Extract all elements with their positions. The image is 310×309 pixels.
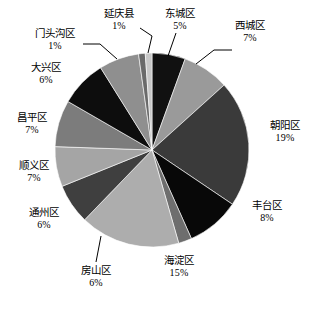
leader-line-mentougou (83, 44, 117, 59)
slice-label-mentougou: 门头沟区 1% (26, 28, 84, 51)
slice-label-mentougou-name: 门头沟区 (26, 28, 84, 40)
slice-label-fengtai: 丰台区 8% (245, 200, 289, 223)
leader-line-xicheng (196, 50, 232, 64)
pie-slice-group (55, 53, 249, 247)
slice-label-fangshan-pct: 6% (72, 277, 120, 288)
slice-label-daxing-pct: 6% (22, 74, 70, 85)
slice-label-yanqing: 延庆县 1% (96, 8, 142, 31)
slice-label-shunyi: 顺义区 7% (10, 160, 58, 183)
slice-label-haidian-name: 海淀区 (155, 255, 203, 267)
slice-label-haidian-pct: 15% (155, 267, 203, 278)
slice-label-changping-pct: 7% (8, 124, 56, 135)
slice-label-dongcheng-pct: 5% (158, 20, 202, 31)
slice-label-fangshan: 房山区 6% (72, 265, 120, 288)
slice-label-yanqing-pct: 1% (96, 20, 142, 31)
slice-label-xicheng-name: 西城区 (228, 20, 272, 32)
slice-label-shunyi-pct: 7% (10, 172, 58, 183)
slice-label-tongzhou: 通州区 6% (20, 207, 68, 230)
slice-label-daxing-name: 大兴区 (22, 62, 70, 74)
pie-chart: 东城区 5% 西城区 7% 朝阳区 19% 丰台区 8% 海淀区 15% 房山区… (0, 0, 310, 309)
slice-label-shunyi-name: 顺义区 (10, 160, 58, 172)
slice-label-tongzhou-pct: 6% (20, 219, 68, 230)
slice-label-xicheng-pct: 7% (228, 32, 272, 43)
slice-label-yanqing-name: 延庆县 (96, 8, 142, 20)
slice-label-dongcheng: 东城区 5% (158, 8, 202, 31)
slice-label-haidian: 海淀区 15% (155, 255, 203, 278)
leader-line-yanqing (140, 28, 152, 53)
slice-label-fengtai-name: 丰台区 (245, 200, 289, 212)
slice-label-fangshan-name: 房山区 (72, 265, 120, 277)
slice-label-dongcheng-name: 东城区 (158, 8, 202, 20)
slice-label-mentougou-pct: 1% (26, 40, 84, 51)
slice-label-chaoyang: 朝阳区 19% (262, 120, 308, 143)
slice-label-fengtai-pct: 8% (245, 212, 289, 223)
slice-label-changping-name: 昌平区 (8, 112, 56, 124)
slice-label-chaoyang-pct: 19% (262, 132, 308, 143)
leader-line-dongcheng (168, 33, 176, 56)
slice-label-changping: 昌平区 7% (8, 112, 56, 135)
slice-label-daxing: 大兴区 6% (22, 62, 70, 85)
slice-label-tongzhou-name: 通州区 (20, 207, 68, 219)
slice-label-xicheng: 西城区 7% (228, 20, 272, 43)
leader-line-fangshan (96, 236, 101, 262)
slice-label-chaoyang-name: 朝阳区 (262, 120, 308, 132)
